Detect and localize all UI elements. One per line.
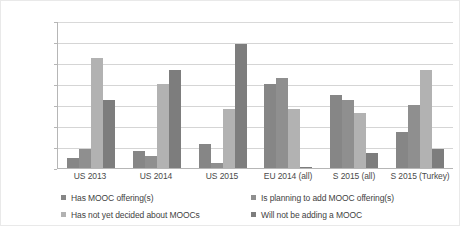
bar[interactable] [133,151,145,168]
bar[interactable] [396,132,408,168]
legend-item-label: Is planning to add MOOC offering(s) [261,193,394,203]
chart-legend: Has MOOC offering(s)Is planning to add M… [61,189,441,223]
bar[interactable] [211,163,223,168]
legend-item-label: Will not be adding a MOOC [261,210,362,220]
bar[interactable] [79,149,91,168]
bar[interactable] [157,84,169,168]
legend-swatch-icon [61,195,66,200]
x-axis-category-label: US 2013 [57,171,123,181]
bar[interactable] [169,70,181,168]
bar[interactable] [342,100,354,168]
bar[interactable] [67,158,79,168]
bar-group-bars [133,22,181,168]
bar[interactable] [330,95,342,169]
legend-item-label: Has MOOC offering(s) [71,193,153,203]
bar-group-bars [199,22,247,168]
bar[interactable] [288,109,300,168]
bar-group-bars [264,22,312,168]
x-axis-category-label: US 2015 [189,171,255,181]
bar-group-bars [330,22,378,168]
legend-item-label: Has not yet decided about MOOCs [71,210,200,220]
bar-group [124,22,190,168]
bar[interactable] [300,167,312,168]
bar-group [190,22,256,168]
bar[interactable] [276,78,288,168]
x-axis-category-label: S 2015 (all) [321,171,387,181]
bar-group [58,22,124,168]
legend-item[interactable]: Will not be adding a MOOC [251,206,441,223]
bar-groups [58,22,453,168]
bar[interactable] [235,44,247,168]
plot-area [57,22,453,169]
x-axis-category-label: EU 2014 (all) [255,171,321,181]
bar[interactable] [432,149,444,168]
x-axis-category-label: US 2014 [123,171,189,181]
x-axis-labels: US 2013US 2014US 2015EU 2014 (all)S 2015… [57,171,453,181]
legend-swatch-icon [251,212,256,217]
legend-item[interactable]: Has not yet decided about MOOCs [61,206,251,223]
bar[interactable] [91,58,103,168]
bar-group [255,22,321,168]
bar[interactable] [420,70,432,168]
legend-swatch-icon [251,195,256,200]
bar-group-bars [396,22,444,168]
bar[interactable] [264,84,276,168]
bar[interactable] [103,100,115,168]
bar-chart: 70,0%60,0%50,0%40,0%30,0%20,0%10,0%0,0% … [0,0,460,226]
legend-item[interactable]: Is planning to add MOOC offering(s) [251,189,441,206]
y-axis-tick-mark [54,169,57,170]
legend-swatch-icon [61,212,66,217]
bar-group [387,22,453,168]
bar[interactable] [408,105,420,168]
bar-group-bars [67,22,115,168]
legend-item[interactable]: Has MOOC offering(s) [61,189,251,206]
bar[interactable] [199,144,211,168]
bar[interactable] [223,109,235,168]
x-axis-category-label: S 2015 (Turkey) [387,171,453,181]
bar[interactable] [145,156,157,168]
bar[interactable] [366,153,378,168]
bar[interactable] [354,113,366,168]
bar-group [321,22,387,168]
